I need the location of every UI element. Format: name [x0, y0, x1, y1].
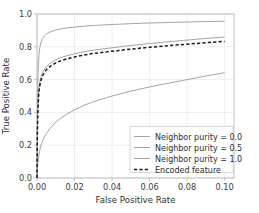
y-axis-title: True Positive Rate: [1, 58, 11, 136]
legend-label-1: Neighbor purity = 0.5: [155, 144, 242, 153]
x-tick-label-0: 0.00: [28, 182, 46, 192]
roc-chart-figure: 0.000.020.040.060.080.10 0.00.20.40.60.8…: [0, 0, 259, 213]
legend-label-2: Neighbor purity = 1.0: [155, 155, 242, 164]
x-tick-label-1: 0.02: [65, 182, 83, 192]
x-tick-label-4: 0.08: [178, 182, 196, 192]
legend-label-0: Neighbor purity = 0.0: [155, 133, 242, 142]
x-tick-label-3: 0.06: [140, 182, 158, 192]
x-tick-label-5: 0.10: [216, 182, 234, 192]
y-tick-label-1: 0.2: [19, 140, 32, 150]
legend-label-3: Encoded feature: [155, 166, 221, 175]
x-tick-label-2: 0.04: [103, 182, 121, 192]
chart-legend[interactable]: Neighbor purity = 0.0Neighbor purity = 0…: [130, 127, 242, 175]
y-tick-label-5: 1.0: [19, 9, 32, 19]
y-tick-label-4: 0.8: [19, 42, 32, 52]
x-axis-title: False Positive Rate: [96, 195, 176, 205]
y-tick-label-2: 0.4: [19, 107, 32, 117]
y-tick-label-0: 0.0: [19, 173, 32, 183]
chart-canvas: 0.000.020.040.060.080.10 0.00.20.40.60.8…: [0, 0, 259, 213]
y-tick-label-3: 0.6: [19, 75, 32, 85]
